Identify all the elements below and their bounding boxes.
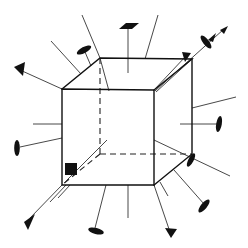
ray-bottom-left-b: [50, 185, 66, 202]
disc-icon-bottom-edge: [88, 226, 105, 236]
disc-icon-left-edge: [14, 140, 20, 156]
arrowhead-icon-bottom-right: [165, 228, 177, 238]
disc-icon-bottom-right-edge: [197, 198, 212, 214]
ray-bottom-right-edge: [174, 170, 204, 204]
ray-bottom-edge: [95, 185, 106, 228]
cube-normals-diagram: [0, 0, 248, 248]
ray-diagonal-a: [154, 56, 186, 90]
ray-bottom-right-short: [160, 182, 168, 196]
ray-top-left-vertex: [20, 70, 62, 89]
arrowhead-icon-top-left: [14, 62, 25, 76]
ray-back-top-left-through: [100, 58, 109, 91]
ray-bottom-left-a: [30, 185, 62, 218]
rays: [20, 15, 236, 232]
ray-top-left-edge: [51, 41, 81, 74]
ray-bottom-right: [154, 185, 170, 232]
ray-depth-through: [64, 140, 107, 183]
ray-left-edge: [20, 138, 62, 147]
ray-right-edge: [192, 97, 236, 108]
disc-icon-top-left: [76, 44, 93, 57]
disc-icon-top-right: [199, 34, 214, 50]
ray-top-edge: [145, 15, 158, 59]
cube-top-face-edges: [62, 58, 192, 90]
square-marker-icon: [65, 163, 77, 175]
tips: [14, 23, 228, 238]
cube-right-face-edges: [154, 59, 192, 185]
arrowhead-icon-far-right: [220, 26, 228, 34]
arrowhead-icon-bottom-left: [24, 214, 35, 230]
ray-top-left-edge-disc: [85, 52, 91, 66]
parallelogram-icon-top: [119, 23, 139, 29]
